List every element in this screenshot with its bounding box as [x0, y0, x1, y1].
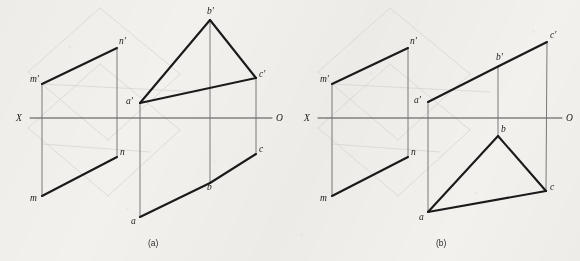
- panel-b-projector-c: [546, 42, 547, 191]
- panel-b-point-label-m_prime: m': [320, 74, 330, 84]
- panel-a-edge-m-prime-n-prime: [42, 48, 117, 84]
- panel-a-edge-b-prime-c-prime: [210, 20, 256, 78]
- panel-b-ghost-plane-6: [390, 64, 470, 130]
- panel-b-ghost-plane-8: [318, 128, 398, 196]
- panel-b-point-label-c_prime: c': [550, 30, 557, 40]
- panel-b-ghost-plane-2: [390, 8, 470, 74]
- panel-a-ghost-plane-7: [108, 130, 180, 196]
- panel-b-edge-a-prime-b-prime: [428, 66, 499, 102]
- panel-b-ghost-diag-1: [332, 84, 490, 92]
- panel-a-axis-label-o: O: [276, 113, 283, 123]
- panel-b-edge-b-prime-c-prime: [499, 42, 547, 66]
- panel-a-point-label-m_prime: m': [30, 74, 40, 84]
- panel-a-ghost-diag-1: [42, 84, 200, 92]
- panel-b-point-label-a: a: [419, 212, 424, 222]
- panel-a-edge-a-b: [140, 183, 210, 217]
- panel-a-point-label-c_prime: c': [259, 69, 266, 79]
- panel-a-edge-b-c: [210, 154, 256, 183]
- descriptive-geometry-drawing: XOm'n'mna'b'c'abcXOm'n'mna'b'c'abc (a)(b…: [0, 0, 580, 261]
- panel-b-axis-label-o: O: [566, 113, 573, 123]
- panel-a-ghost-diag-2: [42, 144, 150, 152]
- panel-b-point-label-n: n: [411, 147, 416, 157]
- panel-b-point-label-c: c: [550, 182, 555, 192]
- panel-b-ghost-plane-3: [398, 74, 470, 140]
- panel-a-point-label-b_prime: b': [207, 6, 215, 16]
- panel-b-edge-b-c: [498, 136, 546, 191]
- panel-a-point-label-a_prime: a': [126, 96, 134, 106]
- panel-b-caption: (b): [436, 238, 447, 248]
- panel-b-ghost-plane-4: [318, 72, 398, 140]
- panel-b-point-label-b_prime: b': [496, 52, 504, 62]
- panel-b-edge-m-n: [332, 157, 408, 196]
- point-label-layer: XOm'n'mna'b'c'abcXOm'n'mna'b'c'abc: [15, 6, 573, 226]
- panel-b-point-label-n_prime: n': [410, 36, 418, 46]
- panel-a-axis-label-x: X: [15, 113, 23, 123]
- panel-a-ghost-plane-2: [100, 8, 180, 74]
- panel-b-ghost-diag-2: [332, 144, 440, 152]
- panel-a-ghost-plane-8: [28, 128, 108, 196]
- panel-a-ghost-plane-4: [28, 72, 108, 140]
- panel-b-ghost-plane-7: [398, 130, 470, 196]
- panel-a-caption: (a): [148, 238, 159, 248]
- panel-a-point-label-c: c: [259, 144, 264, 154]
- panel-a-edge-m-n: [42, 157, 117, 196]
- panel-b-point-label-m: m: [320, 193, 327, 203]
- panel-a-point-label-m: m: [30, 193, 37, 203]
- figure-sheet: XOm'n'mna'b'c'abcXOm'n'mna'b'c'abc (a)(b…: [0, 0, 580, 261]
- panel-b-point-label-b: b: [501, 124, 506, 134]
- panel-a-point-label-n_prime: n': [119, 36, 127, 46]
- panel-caption-layer: (a)(b): [148, 238, 447, 248]
- panel-a-point-label-b: b: [207, 182, 212, 192]
- panel-b-axis-label-x: X: [303, 113, 311, 123]
- panel-b-point-label-a_prime: a': [414, 95, 422, 105]
- panel-a-ghost-plane-3: [108, 74, 180, 140]
- panel-b-edge-m-prime-n-prime: [332, 48, 408, 84]
- panel-a-point-label-a: a: [131, 216, 136, 226]
- panel-a-point-label-n: n: [120, 147, 125, 157]
